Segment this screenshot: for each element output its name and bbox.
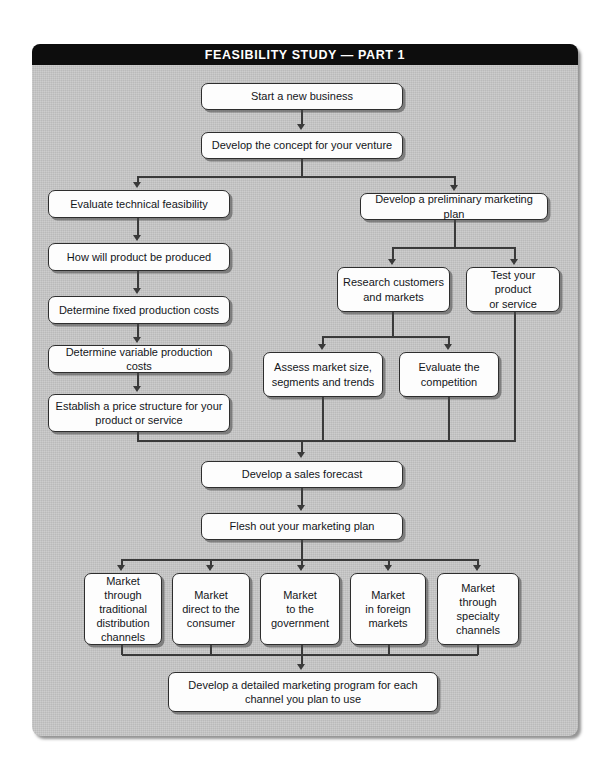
edge-concept-stem bbox=[301, 159, 303, 177]
edge-flesh-out-stem bbox=[301, 540, 303, 560]
arrowhead-tech-feas bbox=[133, 182, 141, 188]
node-determine-variable-production-costs-label: Determine variable production costs bbox=[54, 345, 224, 373]
node-market-traditional-label-line2: traditional bbox=[99, 602, 147, 616]
edge-merge-bar-detailed-program bbox=[122, 654, 478, 656]
node-evaluate-technical-feasibility[interactable]: Evaluate technical feasibility bbox=[48, 190, 230, 218]
node-research-customers-and-markets-label-line2: and markets bbox=[363, 290, 424, 304]
edge-research-split-bar bbox=[322, 336, 449, 338]
node-start[interactable]: Start a new business bbox=[201, 83, 403, 110]
node-develop-preliminary-marketing-plan[interactable]: Develop a preliminary marketing plan bbox=[360, 193, 548, 220]
node-establish-price-structure[interactable]: Establish a price structure for your pro… bbox=[48, 394, 230, 432]
node-establish-price-structure-label-line1: Establish a price structure for your bbox=[56, 399, 223, 413]
node-determine-fixed-production-costs-label: Determine fixed production costs bbox=[59, 303, 219, 317]
node-flesh-out-marketing-plan-label: Flesh out your marketing plan bbox=[230, 519, 375, 533]
arrowhead-sales-forecast bbox=[297, 452, 305, 458]
edge-how-produced-to-fixed-costs bbox=[137, 271, 139, 288]
node-develop-sales-forecast[interactable]: Develop a sales forecast bbox=[201, 461, 403, 488]
arrowhead-price-structure bbox=[133, 386, 141, 392]
arrowhead-concept bbox=[297, 124, 305, 130]
node-market-foreign-label-line2: in foreign bbox=[365, 602, 410, 616]
node-market-government-label-line3: government bbox=[271, 616, 329, 630]
node-market-direct-label-line2: direct to the bbox=[182, 602, 239, 616]
node-assess-market-size[interactable]: Assess market size, segments and trends bbox=[263, 352, 383, 397]
node-develop-detailed-marketing-program-label-line2: channel you plan to use bbox=[245, 692, 361, 706]
edge-merge-bar-sales-forecast bbox=[137, 440, 516, 442]
node-market-specialty-label-line3: channels bbox=[456, 623, 500, 637]
arrowhead-assess-market bbox=[318, 344, 326, 350]
node-research-customers-and-markets-label-line1: Research customers bbox=[343, 275, 444, 289]
arrowhead-test-product bbox=[510, 259, 518, 265]
node-market-traditional-label-line4: channels bbox=[101, 630, 145, 644]
node-market-government-label-line2: to the bbox=[286, 602, 314, 616]
edge-prelim-mkt-stem bbox=[454, 220, 456, 248]
node-market-specialty-label-line1: Market through bbox=[443, 581, 513, 609]
arrowhead-research bbox=[388, 259, 396, 265]
node-assess-market-size-label-line1: Assess market size, bbox=[274, 360, 372, 374]
node-develop-preliminary-marketing-plan-label: Develop a preliminary marketing plan bbox=[366, 192, 542, 220]
node-market-through-specialty-channels[interactable]: Market through specialty channels bbox=[437, 573, 519, 645]
arrowhead-fixed-costs bbox=[133, 288, 141, 294]
arrowhead-variable-costs bbox=[133, 337, 141, 343]
node-test-your-product-or-service[interactable]: Test your product or service bbox=[466, 267, 560, 312]
node-how-will-product-be-produced[interactable]: How will product be produced bbox=[48, 243, 230, 271]
node-establish-price-structure-label-line2: product or service bbox=[95, 413, 182, 427]
node-market-traditional-label-line3: distribution bbox=[96, 616, 149, 630]
flowchart-page: FEASIBILITY STUDY — PART 1 Start a new b… bbox=[0, 0, 610, 777]
node-determine-variable-production-costs[interactable]: Determine variable production costs bbox=[48, 345, 230, 373]
node-research-customers-and-markets[interactable]: Research customers and markets bbox=[337, 267, 450, 312]
arrowhead-evaluate-comp bbox=[444, 344, 452, 350]
node-develop-concept-label: Develop the concept for your venture bbox=[212, 138, 392, 152]
node-market-government-label-line1: Market bbox=[283, 588, 317, 602]
edge-variable-costs-to-price-structure bbox=[137, 373, 139, 387]
node-market-direct-label-line1: Market bbox=[194, 588, 228, 602]
edge-research-stem bbox=[392, 312, 394, 337]
node-market-to-the-government[interactable]: Market to the government bbox=[260, 573, 340, 645]
arrowhead-how-produced bbox=[133, 235, 141, 241]
node-evaluate-the-competition[interactable]: Evaluate the competition bbox=[399, 352, 499, 397]
node-test-your-product-or-service-label-line1: Test your product bbox=[472, 268, 554, 296]
node-market-direct-to-the-consumer[interactable]: Market direct to the consumer bbox=[172, 573, 250, 645]
arrowhead-flesh-out bbox=[297, 505, 305, 511]
node-how-will-product-be-produced-label: How will product be produced bbox=[67, 250, 211, 264]
node-evaluate-the-competition-label-line2: competition bbox=[421, 375, 477, 389]
arrowhead-detailed-program bbox=[297, 664, 305, 670]
edge-prelim-mkt-split-bar bbox=[392, 247, 516, 249]
arrowhead-prelim-mkt bbox=[450, 185, 458, 191]
edge-sales-forecast-to-flesh-out bbox=[301, 488, 303, 505]
edge-fixed-to-variable-costs bbox=[137, 324, 139, 338]
edge-test-product-stem bbox=[514, 312, 516, 441]
edge-concept-split-bar bbox=[137, 176, 456, 178]
node-market-through-traditional-distribution-channels[interactable]: Market through traditional distribution … bbox=[84, 573, 162, 645]
node-determine-fixed-production-costs[interactable]: Determine fixed production costs bbox=[48, 296, 230, 324]
arrowhead-market-foreign bbox=[384, 565, 392, 571]
arrowhead-market-direct bbox=[206, 565, 214, 571]
node-market-traditional-label-line1: Market through bbox=[90, 574, 156, 602]
node-evaluate-the-competition-label-line1: Evaluate the bbox=[418, 360, 479, 374]
node-test-your-product-or-service-label-line2: or service bbox=[489, 297, 537, 311]
node-develop-detailed-marketing-program[interactable]: Develop a detailed marketing program for… bbox=[168, 672, 438, 712]
node-assess-market-size-label-line2: segments and trends bbox=[272, 375, 375, 389]
node-market-in-foreign-markets[interactable]: Market in foreign markets bbox=[350, 573, 426, 645]
arrowhead-market-specialty bbox=[473, 565, 481, 571]
node-develop-sales-forecast-label: Develop a sales forecast bbox=[242, 467, 362, 481]
edge-tech-feas-to-how-produced bbox=[137, 218, 139, 235]
node-start-label: Start a new business bbox=[251, 89, 353, 103]
node-market-foreign-label-line3: markets bbox=[368, 616, 407, 630]
arrowhead-market-traditional bbox=[117, 565, 125, 571]
node-market-direct-label-line3: consumer bbox=[187, 616, 235, 630]
node-develop-detailed-marketing-program-label-line1: Develop a detailed marketing program for… bbox=[188, 678, 417, 692]
node-develop-concept[interactable]: Develop the concept for your venture bbox=[201, 132, 403, 159]
arrowhead-market-government bbox=[297, 565, 305, 571]
page-title: FEASIBILITY STUDY — PART 1 bbox=[32, 44, 578, 65]
node-evaluate-technical-feasibility-label: Evaluate technical feasibility bbox=[70, 197, 208, 211]
edge-evaluate-comp-stem bbox=[448, 397, 450, 441]
edge-channels-split-bar bbox=[122, 559, 478, 561]
edge-assess-market-stem bbox=[322, 397, 324, 441]
node-flesh-out-marketing-plan[interactable]: Flesh out your marketing plan bbox=[201, 513, 403, 540]
node-market-specialty-label-line2: specialty bbox=[457, 609, 500, 623]
node-market-foreign-label-line1: Market bbox=[371, 588, 405, 602]
